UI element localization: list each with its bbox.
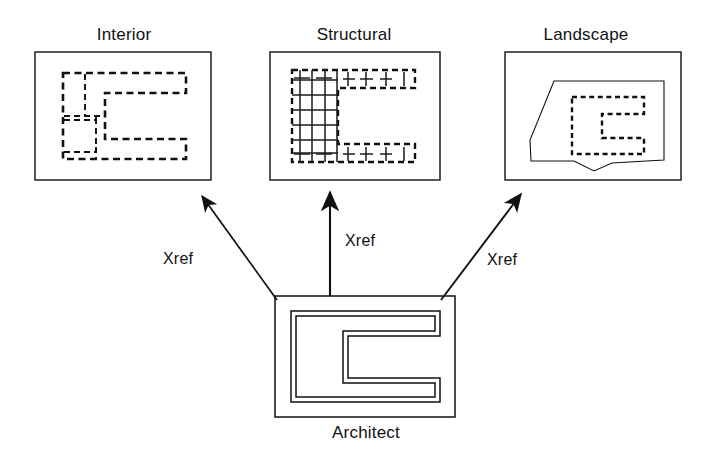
panel-title-structural: Structural	[268, 26, 440, 43]
edge-left-arrow	[202, 196, 277, 300]
edge-label-left-xref: Xref	[163, 251, 193, 267]
panel-title-architect: Architect	[276, 424, 456, 441]
node-structural[interactable]	[270, 52, 440, 180]
edge-label-right-xref: Xref	[487, 252, 517, 268]
diagram-canvas: Interior Structural Landscape Architect …	[0, 0, 713, 470]
edge-label-mid-xref: Xref	[345, 233, 375, 249]
interior-frame	[35, 52, 211, 180]
node-interior[interactable]	[35, 52, 211, 180]
panel-title-landscape: Landscape	[500, 26, 672, 43]
edge-right-arrow	[441, 194, 521, 300]
architect-frame	[275, 296, 455, 417]
node-architect[interactable]	[275, 296, 455, 417]
panel-title-interior: Interior	[38, 26, 210, 43]
node-landscape[interactable]	[505, 52, 681, 180]
